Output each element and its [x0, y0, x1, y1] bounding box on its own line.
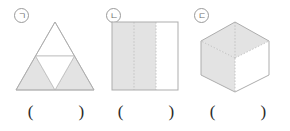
close-paren-1: )	[79, 103, 85, 120]
open-paren-2: (	[118, 103, 124, 120]
square-strip-left-shaded	[112, 22, 134, 90]
answer-blank-1[interactable]: ( )	[20, 98, 92, 124]
close-paren-2: )	[169, 103, 175, 120]
square-figure	[110, 20, 180, 92]
triangle-figure	[14, 20, 96, 92]
answer-blank-3[interactable]: ( )	[200, 98, 276, 124]
square-strip-middle-shaded	[134, 22, 156, 90]
hexagon-divided-into-three-rhombi-svg	[194, 20, 276, 92]
close-paren-3: )	[261, 103, 267, 120]
problem-item-1: ㄱ ( )	[8, 0, 100, 131]
fraction-worksheet: ㄱ ( ) ㄴ	[0, 0, 290, 131]
hexagon-figure	[194, 20, 276, 92]
open-paren-3: (	[210, 103, 216, 120]
triangle-part-top-unshaded	[36, 22, 75, 56]
problem-item-2: ㄴ ( )	[100, 0, 188, 131]
answer-blank-2[interactable]: ( )	[110, 98, 182, 124]
square-strip-right-unshaded	[156, 22, 178, 90]
problem-item-3: ㄷ ( )	[188, 0, 284, 131]
square-divided-into-three-strips-svg	[110, 20, 180, 92]
triangle-divided-into-four-svg	[14, 20, 96, 92]
open-paren-1: (	[28, 103, 34, 120]
